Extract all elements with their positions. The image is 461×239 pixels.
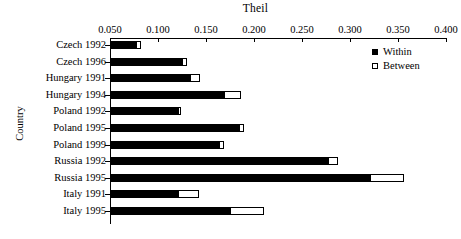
y-tick	[105, 45, 110, 46]
bar-segment-within	[111, 91, 224, 99]
bar-segment-within	[111, 190, 178, 198]
x-tick-label: 0.250	[279, 24, 325, 35]
category-label-row: Hungary 1994	[0, 89, 110, 101]
category-label: Czech 1992	[6, 39, 110, 50]
x-tick	[158, 38, 159, 42]
x-axis-line	[110, 38, 446, 39]
y-tick	[105, 78, 110, 79]
category-label-row: Russia 1995	[0, 172, 110, 184]
x-tick	[206, 38, 207, 42]
legend-item-between: Between	[372, 59, 420, 73]
bar-segment-within	[111, 74, 190, 82]
x-tick-label: 0.300	[327, 24, 373, 35]
x-tick	[446, 38, 447, 42]
y-tick	[105, 95, 110, 96]
bar-group	[111, 107, 181, 115]
x-tick-label: 0.100	[135, 24, 181, 35]
bar-segment-within	[111, 207, 230, 215]
category-label: Czech 1996	[6, 56, 110, 67]
category-label: Russia 1992	[6, 155, 110, 166]
category-label: Hungary 1991	[6, 72, 110, 83]
legend-label-between: Between	[383, 61, 420, 72]
bar-group	[111, 157, 338, 165]
bar-segment-between	[219, 141, 224, 149]
chart-title: Theil	[0, 2, 461, 14]
category-label-row: Czech 1992	[0, 39, 110, 51]
bar-group	[111, 41, 141, 49]
category-label-row: Poland 1995	[0, 122, 110, 134]
bar-group	[111, 91, 241, 99]
y-tick	[105, 161, 110, 162]
y-tick	[105, 111, 110, 112]
category-label: Russia 1995	[6, 172, 110, 183]
bar-segment-within	[111, 58, 182, 66]
y-tick	[105, 145, 110, 146]
theil-bar-chart: Theil Country 0.0500.1000.1500.2000.2500…	[0, 0, 461, 239]
y-tick	[105, 62, 110, 63]
bar-segment-between	[178, 190, 199, 198]
x-tick	[398, 38, 399, 42]
x-tick	[350, 38, 351, 42]
category-label: Hungary 1994	[6, 89, 110, 100]
category-label-row: Czech 1996	[0, 56, 110, 68]
filled-square-icon	[372, 49, 378, 55]
category-label: Poland 1992	[6, 105, 110, 116]
bar-group	[111, 174, 404, 182]
bar-segment-between	[224, 91, 240, 99]
chart-legend: Within Between	[372, 45, 420, 73]
bar-group	[111, 58, 187, 66]
bar-segment-between	[182, 58, 187, 66]
x-tick	[254, 38, 255, 42]
x-tick-label: 0.200	[231, 24, 277, 35]
category-label-row: Poland 1999	[0, 139, 110, 151]
bar-segment-within	[111, 141, 219, 149]
bar-group	[111, 190, 199, 198]
bar-segment-between	[328, 157, 338, 165]
category-label-row: Hungary 1991	[0, 72, 110, 84]
category-label: Italy 1995	[6, 205, 110, 216]
category-label-row: Russia 1992	[0, 155, 110, 167]
bar-segment-between	[136, 41, 141, 49]
bar-group	[111, 141, 224, 149]
category-label-row: Poland 1992	[0, 105, 110, 117]
bar-group	[111, 74, 200, 82]
legend-label-within: Within	[383, 47, 412, 58]
category-label-row: Italy 1991	[0, 188, 110, 200]
x-tick-label: 0.350	[375, 24, 421, 35]
bar-segment-between	[239, 124, 245, 132]
y-tick	[105, 128, 110, 129]
y-tick	[105, 211, 110, 212]
bar-group	[111, 207, 264, 215]
bar-segment-between	[178, 107, 181, 115]
bar-segment-between	[370, 174, 404, 182]
bar-group	[111, 124, 244, 132]
legend-item-within: Within	[372, 45, 420, 59]
y-tick	[105, 178, 110, 179]
bar-segment-within	[111, 107, 178, 115]
x-tick-label: 0.400	[423, 24, 461, 35]
bar-segment-within	[111, 41, 136, 49]
category-label: Poland 1999	[6, 139, 110, 150]
category-label: Poland 1995	[6, 122, 110, 133]
bar-segment-within	[111, 124, 239, 132]
bar-segment-within	[111, 174, 370, 182]
category-label: Italy 1991	[6, 188, 110, 199]
open-square-icon	[372, 63, 378, 69]
bar-segment-within	[111, 157, 328, 165]
x-tick-label: 0.150	[183, 24, 229, 35]
x-tick-label: 0.050	[87, 24, 133, 35]
category-label-row: Italy 1995	[0, 205, 110, 217]
x-tick	[302, 38, 303, 42]
bar-segment-between	[230, 207, 264, 215]
bar-segment-between	[190, 74, 201, 82]
y-tick	[105, 194, 110, 195]
